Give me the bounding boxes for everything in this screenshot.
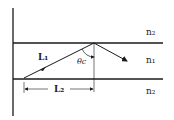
reflected-ray bbox=[94, 43, 127, 61]
label-n1: n₁ bbox=[146, 56, 155, 65]
label-l2: L₂ bbox=[54, 85, 64, 94]
label-n2-top: n₂ bbox=[146, 28, 155, 37]
label-n2-bottom: n₂ bbox=[146, 87, 155, 96]
angle-arc bbox=[82, 49, 94, 57]
incident-ray-arrow-icon bbox=[40, 67, 46, 72]
label-l1: L₁ bbox=[38, 53, 48, 62]
label-theta-c: θc bbox=[77, 58, 86, 66]
